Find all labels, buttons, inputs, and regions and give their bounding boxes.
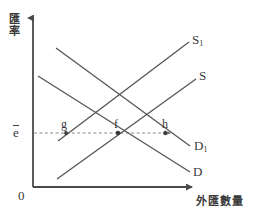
- point-label-h: h: [162, 118, 168, 130]
- point-label-g: g: [61, 118, 67, 130]
- equilibrium-rate-value: e: [13, 125, 19, 139]
- curve-label-s-text: S: [199, 68, 206, 83]
- curve-label-d1: D1: [194, 139, 207, 152]
- point-marker-g: [64, 131, 68, 135]
- equilibrium-rate-label: e: [13, 125, 19, 139]
- x-axis-label: 外匯數量: [196, 196, 244, 207]
- point-label-f: f: [114, 118, 118, 130]
- supply-curve-s: [57, 79, 196, 179]
- curve-label-d1-text: D: [194, 138, 203, 153]
- supply-curve-s1: [58, 42, 189, 141]
- curve-label-d-text: D: [193, 164, 202, 179]
- diagram-canvas: [0, 0, 254, 215]
- y-axis-label-char-2: 率: [8, 26, 21, 38]
- y-axis-label: 匯 率: [8, 14, 21, 37]
- curve-label-d1-sub: 1: [203, 145, 207, 154]
- curve-label-s1-sub: 1: [199, 39, 203, 48]
- curve-label-d: D: [193, 165, 202, 178]
- exchange-rate-diagram: 匯 率 外匯數量 0 e S1 S D1 D g f h: [0, 0, 254, 215]
- curve-label-s: S: [199, 69, 206, 82]
- point-marker-f: [116, 131, 121, 136]
- curve-label-s1: S1: [192, 33, 203, 46]
- point-marker-h: [163, 131, 167, 135]
- y-axis-label-char-1: 匯: [8, 14, 21, 26]
- origin-label: 0: [18, 189, 25, 202]
